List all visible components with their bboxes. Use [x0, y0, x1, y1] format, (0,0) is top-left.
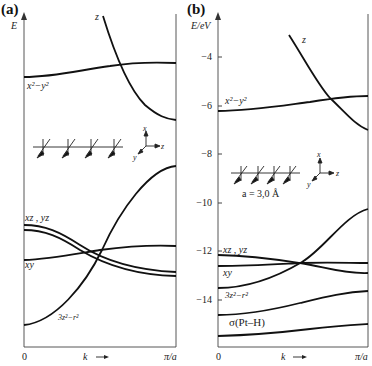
svg-text:−14: −14: [196, 294, 212, 305]
label-sigma-b: σ(Pt–H): [229, 316, 265, 329]
label-x2y2-b: x²−y²: [224, 95, 248, 106]
axis-x-label-b: x: [316, 150, 321, 159]
chain-inset-a: [33, 139, 123, 158]
x-tick-pi-a: π/a: [164, 351, 177, 362]
panel-b-ylabel: E/eV: [190, 20, 212, 31]
band-xy-b: [218, 263, 368, 266]
x-tick-0-b: 0: [216, 351, 221, 362]
panel-a-ylabel: E: [10, 20, 17, 31]
svg-text:−6: −6: [201, 100, 212, 111]
svg-text:−10: −10: [196, 197, 212, 208]
label-x2y2-a: x²−y²: [26, 80, 50, 91]
label-xzyz-a: xz , yz: [24, 212, 49, 223]
axis-x-label-a: x: [142, 124, 147, 133]
band-xzyz-a1: [24, 225, 176, 272]
label-z-b: z: [301, 34, 306, 45]
band-structure-figure: (a) E z x²−y² xz , yz xy 3z²−r²: [0, 0, 372, 366]
panel-b-label: (b): [187, 1, 205, 18]
x-tick-pi-b: π/a: [355, 351, 368, 362]
svg-text:−4: −4: [201, 51, 212, 62]
panel-a-label: (a): [1, 1, 19, 18]
label-xy-b: xy: [222, 267, 232, 278]
axis-y-label-b: y: [306, 180, 311, 189]
xlabel-k-b: k: [281, 351, 286, 362]
arrow-right-icon-b: [293, 355, 307, 359]
axes-triad-icon-a: [138, 131, 160, 154]
chain-inset-b: [231, 166, 300, 184]
y-ticks-b: −4 −6 −8 −10 −12 −14: [196, 51, 212, 305]
chain-unit-icon: [37, 139, 121, 158]
axis-z-label-b: z: [335, 169, 340, 178]
axis-z-label-a: z: [160, 142, 165, 151]
label-xzyz-b: xz , yz: [222, 244, 247, 255]
lattice-spacing-label: a = 3,0 Å: [242, 188, 280, 199]
axes-triad-icon-b: [312, 158, 334, 181]
svg-text:−12: −12: [196, 245, 212, 256]
label-3z2r2-b: 3z²−r²: [224, 290, 248, 300]
arrow-right-icon-a: [96, 355, 109, 359]
label-3z2r2-a: 3z²−r²: [57, 313, 79, 322]
label-z-a: z: [94, 11, 99, 22]
band-z-a: [103, 16, 176, 120]
svg-text:−8: −8: [201, 148, 212, 159]
xlabel-k-a: k: [83, 351, 88, 362]
label-xy-a: xy: [24, 259, 34, 270]
band-z-b: [289, 35, 368, 130]
panel-a-curves: [24, 16, 176, 325]
x-tick-0-a: 0: [22, 351, 27, 362]
axis-y-label-a: y: [132, 153, 137, 162]
band-x2y2-a: [24, 62, 176, 77]
